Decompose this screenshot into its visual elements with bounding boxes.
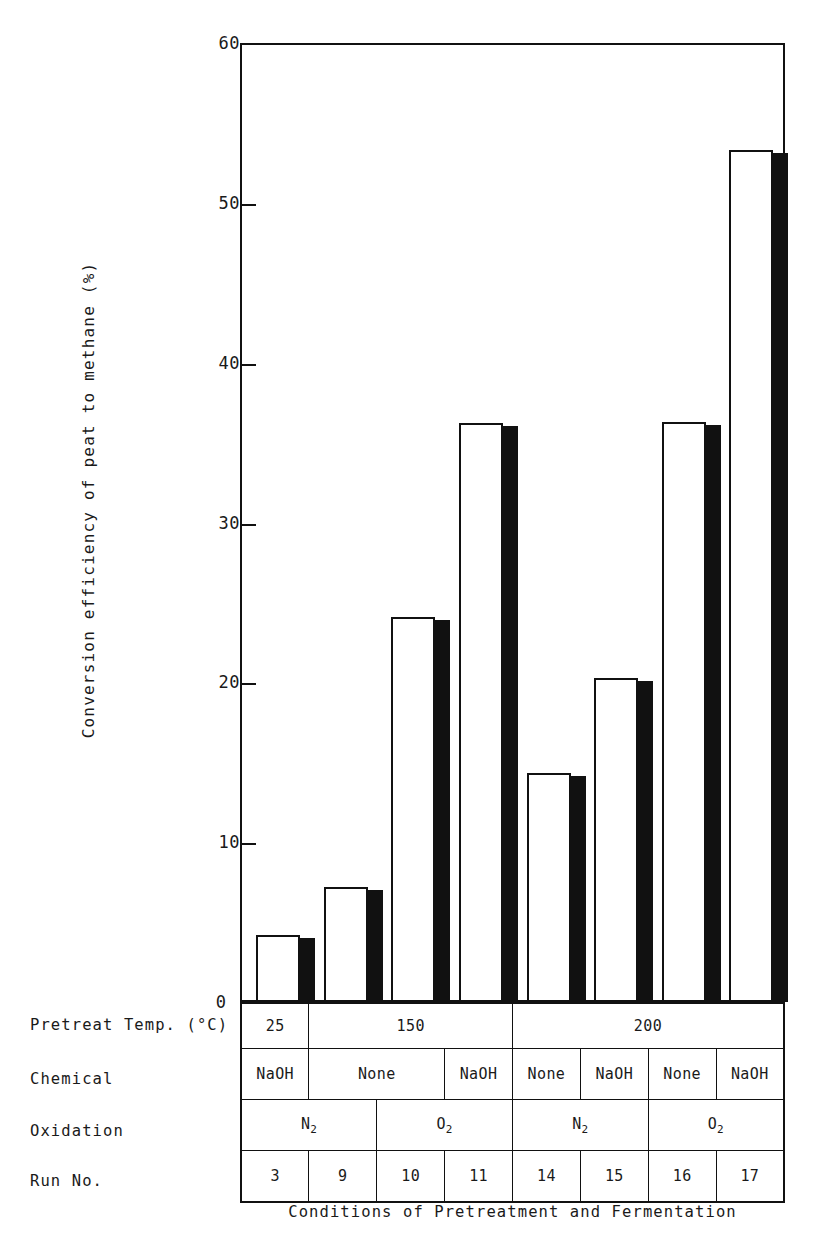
row-label-pretreat-temp: Pretreat Temp. (°C) [30,1016,228,1034]
row-label-oxidation: Oxidation [30,1122,124,1140]
run-no-cell: 17 [716,1151,784,1203]
oxidation-cell: O2 [377,1100,513,1151]
chemical-cell: None [309,1049,445,1100]
figure-bar-chart: 60 50 40 30 20 10 0 Conversion efficienc… [0,0,837,1243]
run-no-cell: 16 [648,1151,716,1203]
bar-run-15 [594,678,638,1002]
bars-layer [242,43,783,1002]
run-no-cell: 9 [309,1151,377,1203]
run-no-cell: 3 [241,1151,309,1203]
pretreat-temp-cell: 200 [513,1003,785,1049]
bar-run-11 [459,423,503,1002]
oxidation-cell: N2 [241,1100,377,1151]
bar-slot [377,43,445,1002]
y-tick-label-30: 30 [194,515,240,532]
oxidation-cell: O2 [648,1100,784,1151]
chemical-cell: NaOH [445,1049,513,1100]
bar-run-16 [662,422,706,1002]
table-row-oxidation: N2O2N2O2 [241,1100,784,1151]
y-tick-label-40: 40 [194,355,240,372]
bar-slot [513,43,581,1002]
bar-slot [445,43,513,1002]
bar-run-10 [391,617,435,1002]
row-label-chemical: Chemical [30,1070,113,1088]
run-no-cell: 14 [513,1151,581,1203]
bar-run-9 [324,887,368,1002]
y-tick-label-10: 10 [194,834,240,851]
table-row-run-no: 39101114151617 [241,1151,784,1203]
chemical-cell: None [648,1049,716,1100]
y-tick-label-50: 50 [194,195,240,212]
row-label-run-no: Run No. [30,1172,103,1190]
bar-slot [580,43,648,1002]
y-tick-label-0: 0 [180,994,226,1011]
bar-run-14 [527,773,571,1002]
table-row-pretreat-temp: 25150200 [241,1003,784,1049]
conditions-table: 25150200 NaOHNoneNaOHNoneNaOHNoneNaOH N2… [240,1002,785,1203]
y-tick-label-60: 60 [194,35,240,52]
chemical-cell: NaOH [580,1049,648,1100]
bar-slot [715,43,783,1002]
bar-slot [310,43,378,1002]
bar-run-17 [729,150,773,1002]
chart-caption: Conditions of Pretreatment and Fermentat… [240,1203,785,1221]
pretreat-temp-cell: 150 [309,1003,513,1049]
oxidation-cell: N2 [513,1100,649,1151]
table-row-chemical: NaOHNoneNaOHNoneNaOHNoneNaOH [241,1049,784,1100]
y-axis-title: Conversion efficiency of peat to methane… [79,262,98,739]
bar-run-3 [256,935,300,1002]
run-no-cell: 11 [445,1151,513,1203]
run-no-cell: 10 [377,1151,445,1203]
y-axis-ticks: 60 50 40 30 20 10 [180,0,240,1243]
bar-shadow-side [771,153,788,1002]
bar-slot [648,43,716,1002]
pretreat-temp-cell: 25 [241,1003,309,1049]
chemical-cell: None [513,1049,581,1100]
chemical-cell: NaOH [241,1049,309,1100]
bar-slot [242,43,310,1002]
y-tick-label-20: 20 [194,674,240,691]
run-no-cell: 15 [580,1151,648,1203]
chemical-cell: NaOH [716,1049,784,1100]
